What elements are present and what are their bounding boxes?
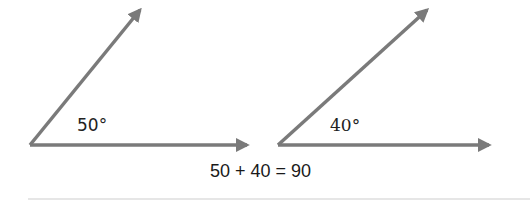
angle-diagram: 50° 40° 50 + 40 = 90 [0,0,530,201]
angle-label: 50° [77,115,107,135]
angle-50: 50° [30,10,247,145]
equation: 50 + 40 = 90 [210,161,311,181]
angle-40: 40° [278,10,489,145]
angle-label: 40° [330,115,360,135]
